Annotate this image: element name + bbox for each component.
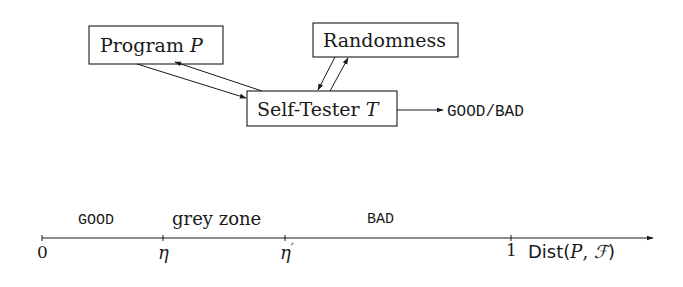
tester-var: T	[366, 98, 380, 120]
svg-text:Self-Tester T: Self-Tester T	[257, 98, 380, 120]
region-grey-zone-label: grey zone	[172, 208, 261, 229]
program-var: P	[189, 34, 204, 56]
svg-text:Program P: Program P	[100, 34, 204, 56]
self-tester-diagram: Program P Randomness Self-Tester T GOOD/…	[0, 0, 683, 287]
self-tester-box: Self-Tester T	[247, 91, 397, 126]
region-bad-label: BAD	[367, 211, 394, 228]
tick-label-prime-mark: ′	[291, 241, 294, 256]
arrow-randomness-to-tester	[318, 57, 335, 90]
arrow-tester-to-randomness	[330, 58, 348, 91]
randomness-label: Randomness	[323, 29, 446, 51]
arrow-program-to-tester	[137, 64, 246, 98]
axis-label-prefix: Dist(	[528, 241, 570, 262]
axis-label: Dist(P, ℱ)	[528, 241, 615, 262]
arrow-tester-to-program	[175, 62, 262, 91]
tester-label: Self-Tester	[257, 98, 366, 120]
axis-label-comma: ,	[582, 241, 593, 262]
tick-label-one: 1	[506, 240, 517, 260]
tick-label-eta: η	[158, 242, 169, 263]
axis-label-suffix: )	[608, 241, 615, 262]
tick-label-eta-prime: η	[280, 242, 291, 263]
distance-axis: GOOD grey zone BAD 0 η η′ 1 Dist(P, ℱ)	[37, 208, 653, 263]
output-label: GOOD/BAD	[447, 103, 524, 121]
program-box: Program P	[89, 26, 223, 64]
axis-label-p: P	[569, 241, 583, 262]
svg-text:η′: η′	[280, 241, 294, 263]
region-good-label: GOOD	[78, 212, 114, 229]
tick-label-zero: 0	[37, 242, 48, 262]
program-label: Program	[100, 34, 190, 56]
randomness-box: Randomness	[313, 23, 458, 57]
